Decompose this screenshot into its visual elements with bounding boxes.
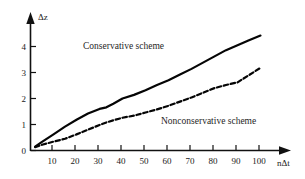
y-axis-title: Δz — [38, 12, 48, 22]
chart-figure: Δz nΔt 0 1 2 3 4 10 20 30 40 50 60 70 8 — [0, 0, 305, 179]
y-tick-label: 4 — [22, 42, 27, 52]
x-tick-label: 10 — [48, 156, 58, 166]
series-label-conservative: Conservative scheme — [83, 41, 164, 51]
x-tick-label: 30 — [94, 156, 104, 166]
x-tick-label: 80 — [209, 156, 219, 166]
x-tick-label: 50 — [140, 156, 150, 166]
chart-background — [0, 0, 305, 179]
x-tick-label: 60 — [163, 156, 173, 166]
x-tick-label: 20 — [71, 156, 81, 166]
y-tick-label: 0 — [22, 146, 27, 156]
x-axis-title: nΔt — [277, 158, 290, 168]
x-tick-label: 40 — [117, 156, 127, 166]
series-label-nonconservative: Nonconservative scheme — [161, 116, 256, 126]
y-tick-label: 3 — [22, 68, 27, 78]
x-tick-label: 100 — [252, 156, 266, 166]
x-tick-label: 70 — [186, 156, 196, 166]
y-tick-label: 1 — [22, 120, 27, 130]
x-tick-label: 90 — [232, 156, 242, 166]
y-tick-label: 2 — [22, 94, 27, 104]
